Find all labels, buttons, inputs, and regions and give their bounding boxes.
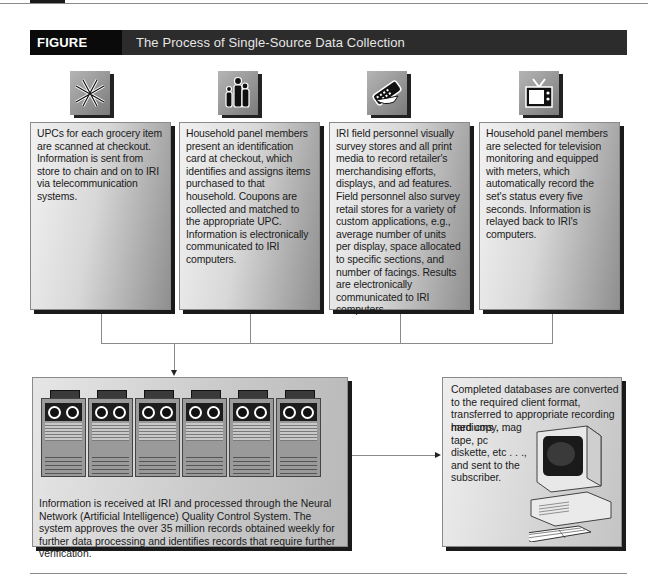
connector-line [552, 314, 553, 344]
figure-label: FIGURE 7.10 [30, 30, 122, 55]
desktop-computer-icon [529, 422, 615, 546]
connector-line [400, 314, 401, 344]
page-tab-marker [30, 0, 65, 3]
step-text: Household panel members are selected for… [486, 128, 608, 240]
connector-arrow-line [352, 455, 436, 456]
step-box-household-panel: Household panel members present an ident… [179, 122, 320, 310]
bottom-rule [30, 573, 627, 574]
family-icon [218, 71, 258, 115]
step-box-television-monitoring: Household panel members are selected for… [479, 122, 620, 310]
arrow-down-icon [171, 370, 177, 376]
connector-line [101, 314, 102, 344]
television-icon [519, 71, 559, 115]
connector-drop [174, 343, 175, 373]
handheld-device-icon [367, 71, 407, 115]
server-rack-icon [41, 390, 321, 477]
step-box-field-personnel: IRI field personnel visually survey stor… [329, 122, 470, 310]
processing-text: Information is received at IRI and proce… [39, 498, 344, 561]
processing-box: Information is received at IRI and proce… [32, 377, 348, 547]
step-box-scanning: UPCs for each grocery item are scanned a… [30, 122, 171, 310]
delivery-text-side: hard copy, mag tape, pc diskette, etc . … [451, 422, 529, 485]
figure-header: FIGURE 7.10 The Process of Single-Source… [30, 30, 627, 55]
step-text: Household panel members present an ident… [186, 128, 310, 265]
step-text: UPCs for each grocery item are scanned a… [37, 128, 162, 202]
delivery-box: Completed databases are converted to the… [442, 377, 622, 547]
barcode-scanner-icon [70, 71, 110, 115]
top-rule [0, 3, 648, 4]
figure-title: The Process of Single-Source Data Collec… [122, 35, 405, 50]
arrow-right-icon [435, 452, 441, 458]
step-text: IRI field personnel visually survey stor… [336, 128, 461, 315]
connector-line [250, 314, 251, 344]
connector-bus [101, 343, 553, 344]
